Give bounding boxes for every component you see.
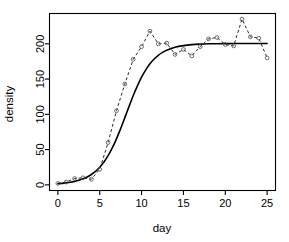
x-tick-label-5: 5: [97, 197, 103, 209]
y-tick-label-0: 0: [34, 182, 46, 188]
y-tick-label-150: 150: [34, 70, 46, 88]
x-tick-label-15: 15: [177, 197, 189, 209]
x-tick-label-20: 20: [219, 197, 231, 209]
density-vs-day-plot: 0510152025 050100150200 day density: [0, 0, 289, 242]
y-tick-label-50: 50: [34, 143, 46, 155]
x-tick-label-0: 0: [55, 197, 61, 209]
chart-container: 0510152025 050100150200 day density: [0, 0, 289, 242]
x-tick-label-25: 25: [261, 197, 273, 209]
x-tick-label-10: 10: [135, 197, 147, 209]
y-axis-title: density: [3, 86, 15, 123]
x-axis-title: day: [153, 222, 172, 234]
y-tick-label-200: 200: [34, 35, 46, 53]
y-tick-label-100: 100: [34, 105, 46, 123]
